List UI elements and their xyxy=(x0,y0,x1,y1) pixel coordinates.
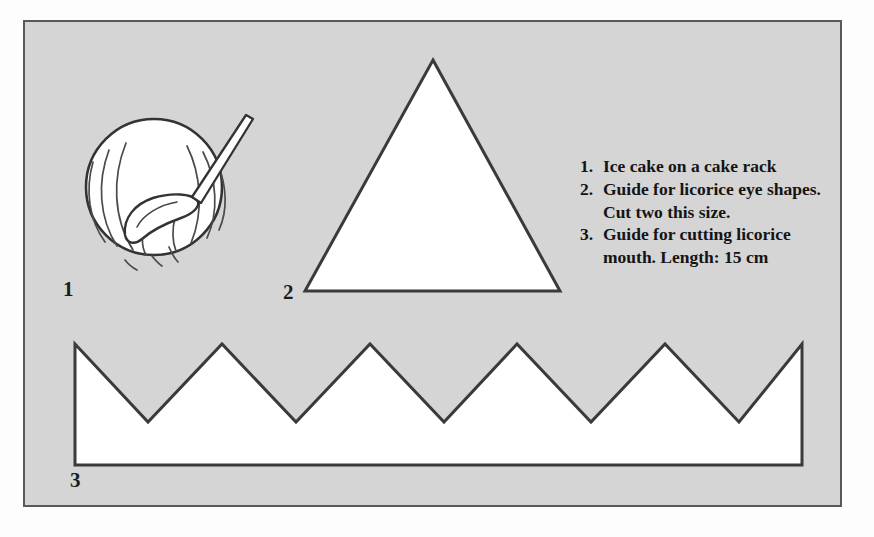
instruction-list: 1. Ice cake on a cake rack 2. Guide for … xyxy=(580,155,835,269)
instruction-marker: 3. xyxy=(580,223,603,246)
figure-number-2: 2 xyxy=(283,282,294,303)
instruction-text: Guide for cutting licorice mouth. Length… xyxy=(603,223,835,269)
zigzag-shape xyxy=(75,344,802,465)
figure-3-zigzag-template xyxy=(75,344,802,465)
instruction-item-2: 2. Guide for licorice eye shapes. Cut tw… xyxy=(580,178,835,224)
instruction-marker: 1. xyxy=(580,155,603,178)
triangle-shape xyxy=(305,60,560,291)
scanned-page: 1 2 3 1. Ice cake on a cake rack 2. Guid… xyxy=(0,0,874,537)
illustration-panel: 1 2 3 1. Ice cake on a cake rack 2. Guid… xyxy=(23,20,842,507)
instruction-text: Ice cake on a cake rack xyxy=(603,155,835,178)
figure-2-triangle-template xyxy=(305,60,560,291)
figure-number-1: 1 xyxy=(63,279,74,300)
illustration-panel-inner: 1 2 3 1. Ice cake on a cake rack 2. Guid… xyxy=(25,22,840,505)
figure-1-iced-cake xyxy=(86,115,253,270)
instruction-item-1: 1. Ice cake on a cake rack xyxy=(580,155,835,178)
instruction-marker: 2. xyxy=(580,178,603,201)
figure-number-3: 3 xyxy=(70,470,81,491)
instruction-item-3: 3. Guide for cutting licorice mouth. Len… xyxy=(580,223,835,269)
instruction-text: Guide for licorice eye shapes. Cut two t… xyxy=(603,178,835,224)
